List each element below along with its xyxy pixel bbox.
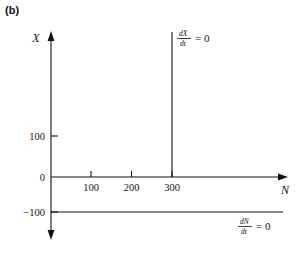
y-axis-arrow-down-icon (48, 230, 55, 240)
y-tick-label-100: 100 (29, 131, 45, 142)
y-axis-arrow-up-icon (48, 31, 55, 41)
annotation-dndt-denominator: dt (241, 227, 248, 236)
annotation-dndt: dN dt = 0 (238, 217, 271, 236)
annotation-dndt-numerator: dN (240, 217, 250, 226)
x-tick-label-100: 100 (83, 182, 99, 193)
y-tick-label-minus-100: −100 (23, 207, 45, 218)
figure-panel: (b) X N 100 0 −100 100 200 300 dX (0, 0, 301, 255)
x-axis-arrow-right-icon (278, 174, 288, 181)
y-axis-label: X (31, 31, 40, 45)
annotation-dxdt-numerator: dX (179, 29, 188, 38)
annotation-dndt-equals: = 0 (256, 220, 271, 232)
panel-label: (b) (5, 4, 19, 16)
x-axis-label: N (280, 183, 290, 197)
x-tick-label-300: 300 (164, 182, 180, 193)
phase-plane-plot: X N 100 0 −100 100 200 300 dX dt = 0 dN … (0, 0, 301, 255)
annotation-dxdt-equals: = 0 (195, 32, 210, 44)
annotation-dxdt: dX dt = 0 (177, 29, 210, 48)
annotation-dxdt-denominator: dt (180, 39, 187, 48)
x-tick-label-200: 200 (124, 182, 140, 193)
y-tick-label-0: 0 (40, 172, 45, 183)
